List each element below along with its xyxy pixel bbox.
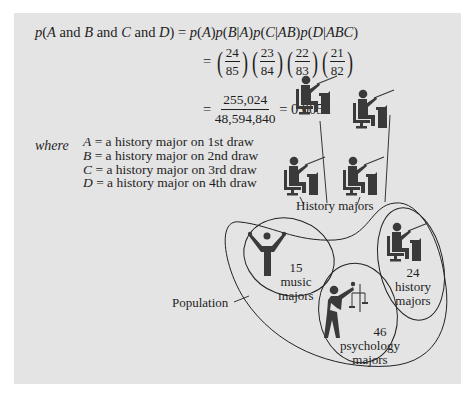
connector-line	[320, 121, 327, 203]
psychology-majors-label: 46 psychology majors	[330, 325, 410, 367]
connector-line	[385, 115, 390, 202]
group-name: history	[388, 280, 438, 294]
music-majors-label: 15 music majors	[271, 261, 321, 303]
group-count: 46	[330, 325, 410, 339]
group-suffix: majors	[330, 353, 410, 367]
sampled-history-icon-1	[296, 76, 337, 115]
group-name: psychology	[330, 339, 410, 353]
history-majors-group-label: 24 history majors	[388, 266, 438, 308]
group-name: music	[271, 275, 321, 289]
history-major-icon	[387, 223, 428, 262]
group-suffix: majors	[388, 294, 438, 308]
history-majors-label: History majors	[296, 199, 374, 213]
population-label: Population	[172, 296, 228, 310]
group-count: 24	[388, 266, 438, 280]
sampled-history-icon-3	[284, 157, 325, 196]
group-suffix: majors	[271, 289, 321, 303]
group-count: 15	[271, 261, 321, 275]
sampled-history-icon-2	[353, 90, 394, 129]
sampled-history-icon-4	[343, 157, 384, 196]
